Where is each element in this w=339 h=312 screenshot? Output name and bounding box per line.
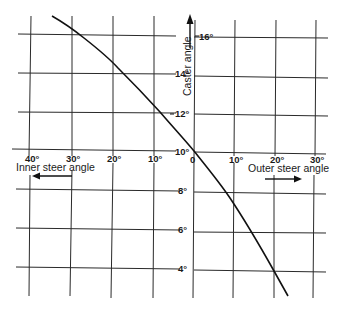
y-tick-12: 12° xyxy=(175,108,190,119)
caster-axis-label: Caster angle xyxy=(181,36,193,96)
y-tick-10: 10° xyxy=(175,146,190,157)
chart-svg: Caster angle 16° 14° 12° 10° 8° 6° 4° 40… xyxy=(0,0,339,312)
caster-steer-chart: Caster angle 16° 14° 12° 10° 8° 6° 4° 40… xyxy=(0,0,339,312)
inner-arrow xyxy=(32,173,72,180)
outer-steer-label: Outer steer angle xyxy=(248,162,329,174)
x-tick-inner-20: 20° xyxy=(107,153,122,164)
x-tick-outer-10: 10° xyxy=(229,154,244,165)
y-tick-14: 14° xyxy=(175,68,190,79)
x-tick-zero: 0 xyxy=(190,154,195,165)
y-tick-4: 4° xyxy=(178,263,187,274)
caster-curve xyxy=(52,16,288,296)
inner-steer-label: Inner steer angle xyxy=(16,161,95,173)
outer-arrow xyxy=(265,176,302,183)
y-tick-8: 8° xyxy=(178,185,187,196)
y-tick-16: 16° xyxy=(199,31,214,42)
x-tick-inner-10: 10° xyxy=(148,153,163,164)
horizontal-gridlines xyxy=(12,34,328,272)
y-tick-6: 6° xyxy=(178,224,187,235)
